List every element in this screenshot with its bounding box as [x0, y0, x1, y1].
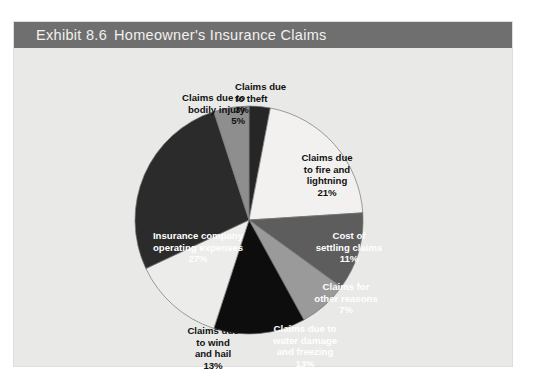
- pie-label-line: Cost of: [303, 230, 395, 242]
- pie-label-value: 7%: [300, 304, 392, 316]
- exhibit-title-text: Homeowner's Insurance Claims: [114, 27, 327, 43]
- pie-label-line: Claims due: [284, 152, 370, 164]
- pie-label-line: Insurance company: [137, 230, 259, 242]
- pie-label-value: 5%: [141, 115, 245, 127]
- pie-label-fire-and-lightning: Claims due to fire and lightning 21%: [284, 152, 370, 198]
- pie-label-other-reasons: Claims for other reasons 7%: [300, 281, 392, 316]
- pie-label-water-damage: Claims due to water damage and freezing …: [256, 323, 354, 369]
- pie-label-line: and freezing: [256, 346, 354, 358]
- exhibit-title-bar: Exhibit 8.6Homeowner's Insurance Claims: [14, 22, 512, 48]
- pie-label-line: Claims due to: [141, 92, 245, 104]
- pie-label-line: and hail: [175, 348, 251, 360]
- pie-label-line: Claims for: [300, 281, 392, 293]
- pie-label-line: bodily injury: [141, 104, 245, 116]
- pie-label-line: Claims due to: [256, 323, 354, 335]
- pie-label-line: settling claims: [303, 242, 395, 254]
- exhibit-number: Exhibit 8.6: [36, 27, 107, 43]
- pie-label-theft: Claims due to theft 3%: [235, 81, 305, 116]
- pie-label-line: other reasons: [300, 293, 392, 305]
- pie-label-line: to fire and: [284, 164, 370, 176]
- pie-label-line: Claims due: [175, 325, 251, 337]
- pie-label-line: lightning: [284, 175, 370, 187]
- pie-label-value: 27%: [137, 253, 259, 265]
- pie-label-line: Claims due: [235, 81, 305, 93]
- pie-label-value: 13%: [256, 358, 354, 370]
- pie-label-settling-claims: Cost of settling claims 11%: [303, 230, 395, 265]
- pie-label-line: to wind: [175, 337, 251, 349]
- exhibit-title: Exhibit 8.6Homeowner's Insurance Claims: [14, 27, 327, 43]
- pie-label-value: 13%: [175, 360, 251, 372]
- pie-label-value: 21%: [284, 187, 370, 199]
- pie-label-line: to theft: [235, 93, 305, 105]
- pie-label-bodily-injury: Claims due to bodily injury 5%: [141, 92, 245, 127]
- pie-label-value: 3%: [235, 104, 305, 116]
- pie-chart-plot-area: Claims due to bodily injury 5% Claims du…: [14, 48, 512, 366]
- pie-label-wind-and-hail: Claims due to wind and hail 13%: [175, 325, 251, 371]
- exhibit-figure-panel: Exhibit 8.6Homeowner's Insurance Claims …: [14, 22, 512, 366]
- pie-label-line: operating expenses: [137, 242, 259, 254]
- pie-label-operating-expenses: Insurance company operating expenses 27%: [137, 230, 259, 265]
- pie-label-line: water damage: [256, 335, 354, 347]
- pie-label-value: 11%: [303, 253, 395, 265]
